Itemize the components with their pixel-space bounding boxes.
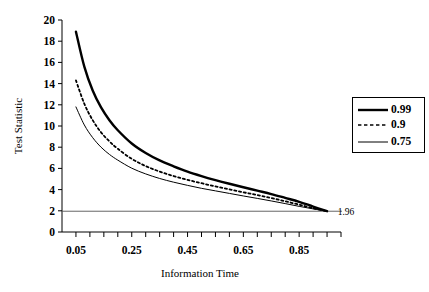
chart-legend: 0.990.90.75: [353, 98, 425, 153]
test-statistic-boundary-chart: 02468101214161820 0.050.250.450.650.85 1…: [0, 0, 429, 292]
y-axis-tick-label: 14: [44, 78, 56, 90]
y-axis-tick-label: 8: [49, 141, 55, 153]
y-axis-tick-label: 10: [44, 120, 56, 132]
legend-label-0.9: 0.9: [391, 118, 406, 130]
annotation-critical-value: 1.96: [338, 207, 355, 217]
y-axis-title: Test Statistic: [12, 98, 24, 154]
y-axis-tick-label: 4: [49, 184, 55, 196]
chart-figure: 02468101214161820 0.050.250.450.650.85 1…: [0, 0, 429, 292]
y-axis-tick-label: 2: [49, 205, 55, 217]
x-axis-tick-label: 0.65: [233, 244, 253, 256]
y-axis-tick-label: 18: [44, 35, 56, 47]
y-axis-tick-label: 16: [44, 56, 56, 68]
chart-annotations: 1.96: [338, 207, 355, 217]
y-axis-tick-label: 20: [44, 14, 56, 26]
y-axis-tick-label: 0: [49, 226, 55, 238]
x-axis-tick-label: 0.05: [66, 244, 86, 256]
x-axis-tick-label: 0.85: [289, 244, 309, 256]
legend-border: [353, 98, 425, 153]
y-axis-tick-label: 6: [49, 162, 55, 174]
y-axis-tick-label: 12: [44, 99, 56, 111]
legend-label-0.99: 0.99: [391, 103, 411, 115]
x-axis-title: Information Time: [161, 267, 239, 279]
x-axis-tick-label: 0.25: [122, 244, 142, 256]
x-axis-tick-label: 0.45: [177, 244, 197, 256]
legend-label-0.75: 0.75: [391, 135, 411, 147]
